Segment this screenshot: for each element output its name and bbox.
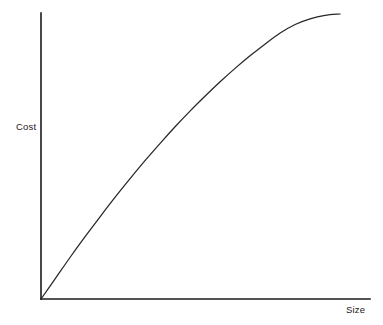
chart-container: Cost Size [0, 0, 383, 325]
chart-canvas [0, 0, 383, 325]
data-series-line [41, 14, 340, 299]
y-axis-label: Cost [16, 121, 36, 132]
x-axis-label: Size [346, 304, 365, 315]
